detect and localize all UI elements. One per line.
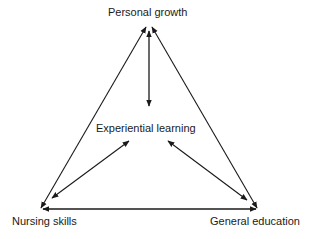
node-personal-growth: Personal growth (108, 6, 188, 19)
diagram-canvas: Personal growth Experiential learning Nu… (0, 0, 319, 239)
triangle-diagram (0, 0, 319, 239)
node-general-education: General education (210, 215, 300, 228)
node-nursing-skills: Nursing skills (12, 215, 77, 228)
edge-personal-growth-general-education (152, 27, 257, 208)
edge-personal-growth-nursing-skills (41, 27, 146, 208)
node-experiential-learning: Experiential learning (96, 122, 196, 135)
